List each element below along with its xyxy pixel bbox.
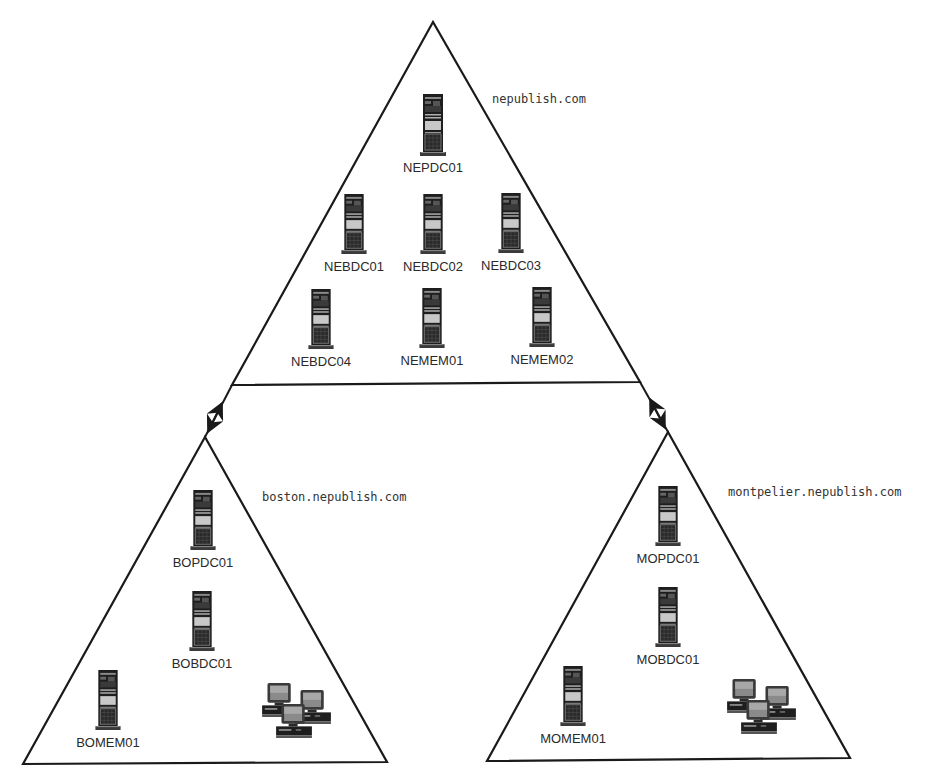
server-icon <box>420 194 445 254</box>
server-icon <box>529 287 554 347</box>
node-label: NEMEM01 <box>392 353 472 368</box>
node-label: NEMEM02 <box>502 352 582 367</box>
node-label: MOBDC01 <box>628 652 708 667</box>
node-label: BOPDC01 <box>163 555 243 570</box>
node-label: NEBDC01 <box>314 259 394 274</box>
domain-tree-diagram <box>0 0 938 784</box>
domain-label-boston: boston.nepublish.com <box>262 490 407 504</box>
node-label: NEBDC02 <box>393 259 473 274</box>
node-label: BOMEM01 <box>68 735 148 750</box>
server-icon <box>95 670 120 730</box>
server-icon <box>420 94 446 156</box>
server-icon <box>308 289 333 349</box>
server-icon <box>498 193 523 253</box>
node-label: NEBDC04 <box>281 354 361 369</box>
server-icon <box>655 486 680 546</box>
node-label: MOMEM01 <box>533 731 613 746</box>
node-label: MOPDC01 <box>628 551 708 566</box>
node-label: NEPDC01 <box>393 160 473 175</box>
domain-label-montpelier: montpelier.nepublish.com <box>728 485 901 499</box>
node-label: NEBDC03 <box>471 258 551 273</box>
server-icon <box>341 194 366 254</box>
server-icon <box>560 666 585 726</box>
node-label: BOBDC01 <box>162 656 242 671</box>
server-icon <box>189 591 214 651</box>
workstation-group-icon-boston <box>262 683 331 738</box>
server-icon <box>419 288 444 348</box>
domain-label-nepublish: nepublish.com <box>492 92 586 106</box>
server-icon <box>655 587 680 647</box>
server-icon <box>190 490 215 550</box>
workstation-group-icon-montpelier <box>727 679 796 734</box>
